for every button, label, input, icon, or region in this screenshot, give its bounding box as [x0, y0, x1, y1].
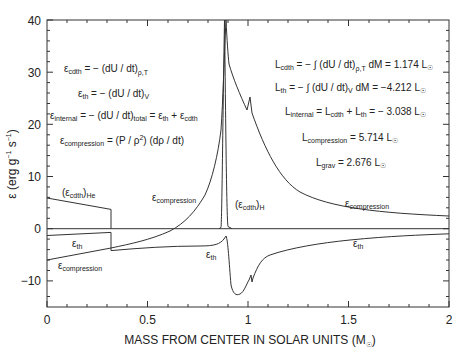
label-eps-th-right: εth [353, 238, 363, 250]
label-eps-compression-right: εcompression [345, 198, 389, 211]
x-tick-label: 0.5 [139, 313, 156, 327]
y-tick-label: 30 [28, 66, 42, 80]
curve-eps-cdth-he [47, 198, 111, 229]
x-tick-labels: 0 0.5 1 1.5 2 [44, 313, 453, 327]
label-eps-compression-left: εcompression [58, 260, 102, 273]
x-tick-label: 1.5 [340, 313, 357, 327]
eq-eps-compression: εcompression = (P / ρ2) (dρ / dt) [60, 134, 184, 148]
label-eps-compression-mid: εcompression [152, 192, 196, 205]
curve-labels: (εcdth)He εcompression (εcdth)H εcompres… [58, 187, 389, 273]
lum-internal: Linternal = Lcdth + Lth = − 3.038 L☉ [285, 106, 426, 118]
label-eps-th-mid: εth [206, 249, 216, 261]
x-axis-title: MASS FROM CENTER IN SOLAR UNITS (M☉) [124, 333, 375, 348]
eq-eps-th: εth = − (dU / dt)V [78, 88, 149, 100]
y-tick-label: 40 [28, 14, 42, 28]
lum-cdth: Lcdth = − ∫ (dU / dt)ρ,T dM = 1.174 L☉ [275, 59, 433, 73]
x-tick-label: 1 [245, 313, 252, 327]
y-tick-labels: −10 0 10 20 30 40 [21, 14, 42, 288]
y-tick-label: 0 [34, 222, 41, 236]
x-tick-label: 2 [446, 313, 453, 327]
y-tick-label: 20 [28, 118, 42, 132]
y-axis-title: ε (erg g−1 s−1) [5, 129, 19, 198]
lum-grav: Lgrav = 2.676 L☉ [316, 157, 386, 170]
y-tick-label: −10 [21, 274, 42, 288]
chart: 0 0.5 1 1.5 2 −10 0 10 20 30 40 MASS FRO… [0, 0, 461, 349]
y-tick-label: 10 [28, 170, 42, 184]
equations-left: εcdth = − (dU / dt)ρ,T εth = − (dU / dt)… [50, 63, 198, 148]
label-eps-cdth-h: (εcdth)H [235, 199, 264, 211]
lum-th: Lth = − ∫ (dU / dt)V dM = −4.212 L☉ [275, 82, 426, 94]
eq-eps-cdth: εcdth = − (dU / dt)ρ,T [64, 63, 149, 77]
label-eps-cdth-he: (εcdth)He [62, 187, 95, 199]
curve-eps-th [47, 232, 449, 294]
eq-eps-internal: εinternal = − (dU / dt)total = εth + εcd… [50, 110, 198, 122]
x-tick-label: 0 [44, 313, 51, 327]
label-eps-th-left: εth [72, 238, 82, 250]
luminosities-right: Lcdth = − ∫ (dU / dt)ρ,T dM = 1.174 L☉ L… [275, 59, 433, 170]
lum-compression: Lcompression = 5.714 L☉ [302, 132, 398, 145]
